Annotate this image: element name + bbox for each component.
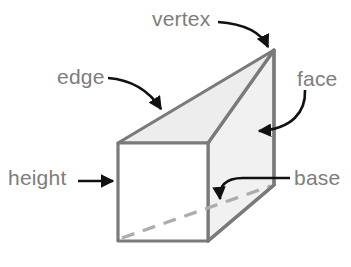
label-base: base bbox=[294, 167, 340, 188]
edge-arrow bbox=[108, 78, 161, 109]
prism-illustration bbox=[0, 0, 351, 267]
label-vertex: vertex bbox=[152, 8, 210, 29]
vertex-arrow bbox=[218, 22, 268, 47]
label-face: face bbox=[297, 68, 338, 89]
figure-caption bbox=[0, 251, 351, 267]
label-edge: edge bbox=[57, 66, 105, 87]
front-face bbox=[118, 143, 208, 241]
label-height: height bbox=[8, 167, 66, 188]
prism-figure: vertex edge face height base bbox=[0, 0, 351, 267]
